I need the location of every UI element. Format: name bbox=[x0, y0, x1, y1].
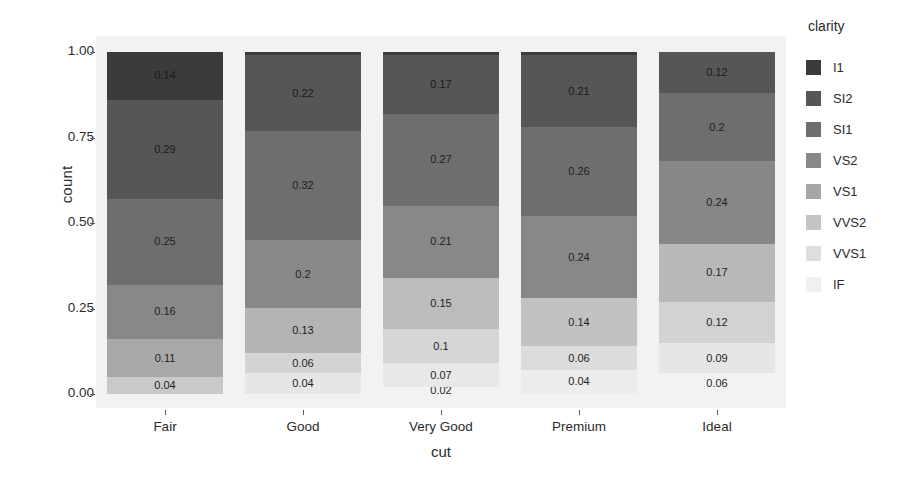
bar-segment-label: 0.17 bbox=[706, 267, 727, 278]
bar-segment-si2[interactable]: 0.22 bbox=[245, 55, 361, 130]
bar-segment-vs1[interactable]: 0.14 bbox=[521, 298, 637, 346]
bar-segment-if[interactable]: 0.06 bbox=[659, 373, 775, 394]
bar-segment-si2[interactable]: 0.12 bbox=[659, 52, 775, 93]
bar-segment-label: 0.14 bbox=[568, 317, 589, 328]
bar-segment-si2[interactable]: 0.17 bbox=[383, 55, 499, 113]
y-tick-label: 0.50 bbox=[32, 214, 94, 229]
legend-swatch-icon bbox=[806, 153, 821, 168]
bar-segment-vvs1[interactable]: 0.09 bbox=[659, 343, 775, 374]
bar-very-good[interactable]: 0.170.270.210.150.10.070.02 bbox=[383, 52, 499, 394]
legend-label: VVS1 bbox=[833, 246, 866, 261]
bar-segment-si2[interactable]: 0.21 bbox=[521, 55, 637, 127]
bar-segment-label: 0.09 bbox=[706, 353, 727, 364]
bar-segment-label: 0.32 bbox=[292, 180, 313, 191]
bar-premium[interactable]: 0.210.260.240.140.060.04 bbox=[521, 52, 637, 394]
bar-segment-label: 0.17 bbox=[430, 79, 451, 90]
bar-segment-vvs2[interactable]: 0.1 bbox=[383, 329, 499, 363]
bar-segment-label: 0.14 bbox=[154, 70, 175, 81]
legend-swatch-icon bbox=[806, 277, 821, 292]
bar-segment-i1[interactable]: 0.14 bbox=[107, 52, 223, 100]
y-tick-mark bbox=[90, 394, 95, 395]
legend-item-i1[interactable]: I1 bbox=[806, 52, 906, 83]
bar-segment-vs2[interactable]: 0.16 bbox=[107, 285, 223, 340]
legend-label: I1 bbox=[833, 60, 844, 75]
bar-segment-label: 0.1 bbox=[433, 341, 448, 352]
bar-segment-label: 0.06 bbox=[292, 358, 313, 369]
x-tick-mark bbox=[717, 410, 718, 415]
y-tick-label: 1.00 bbox=[32, 43, 94, 58]
bar-segment-label: 0.04 bbox=[568, 376, 589, 387]
bar-segment-vs1[interactable]: 0.17 bbox=[659, 244, 775, 302]
bar-segment-label: 0.16 bbox=[154, 306, 175, 317]
bar-segment-label: 0.04 bbox=[292, 378, 313, 389]
bar-segment-label: 0.26 bbox=[568, 166, 589, 177]
x-tick-label-ideal: Ideal bbox=[647, 419, 787, 434]
x-tick-mark bbox=[165, 410, 166, 415]
bar-segment-vvs1[interactable]: 0.07 bbox=[383, 363, 499, 387]
bar-segment-si1[interactable]: 0.2 bbox=[659, 93, 775, 161]
bar-segment-vs2[interactable]: 0.24 bbox=[521, 216, 637, 298]
legend-item-if[interactable]: IF bbox=[806, 269, 906, 300]
bar-segment-label: 0.15 bbox=[430, 298, 451, 309]
legend-label: SI2 bbox=[833, 91, 853, 106]
bar-segment-label: 0.13 bbox=[292, 325, 313, 336]
y-tick-label: 0.25 bbox=[32, 300, 94, 315]
x-tick-mark bbox=[579, 410, 580, 415]
legend-swatch-icon bbox=[806, 122, 821, 137]
bar-fair[interactable]: 0.140.290.250.160.110.04 bbox=[107, 52, 223, 394]
x-tick-label-premium: Premium bbox=[509, 419, 649, 434]
y-tick-label: 0.75 bbox=[32, 129, 94, 144]
bar-segment-vvs2[interactable]: 0.04 bbox=[107, 377, 223, 394]
bar-segment-if[interactable]: 0.02 bbox=[383, 387, 499, 394]
bar-segment-label: 0.11 bbox=[155, 353, 176, 364]
legend-item-vs1[interactable]: VS1 bbox=[806, 176, 906, 207]
legend-items: I1SI2SI1VS2VS1VVS2VVS1IF bbox=[806, 52, 906, 300]
bar-segment-vs1[interactable]: 0.13 bbox=[245, 308, 361, 352]
legend-item-si2[interactable]: SI2 bbox=[806, 83, 906, 114]
legend: clarity I1SI2SI1VS2VS1VVS2VVS1IF bbox=[806, 18, 906, 300]
x-axis-title: cut bbox=[96, 443, 786, 460]
x-tick-label-fair: Fair bbox=[95, 419, 235, 434]
bar-good[interactable]: 0.220.320.20.130.060.04 bbox=[245, 52, 361, 394]
legend-swatch-icon bbox=[806, 246, 821, 261]
legend-label: IF bbox=[833, 277, 845, 292]
bar-segment-label: 0.12 bbox=[706, 67, 727, 78]
y-axis: 1.000.750.500.250.00 bbox=[26, 0, 94, 481]
bar-segment-vs2[interactable]: 0.24 bbox=[659, 161, 775, 243]
y-tick-mark bbox=[90, 309, 95, 310]
legend-swatch-icon bbox=[806, 184, 821, 199]
bar-segment-vvs1[interactable]: 0.04 bbox=[245, 373, 361, 394]
bar-segment-vvs2[interactable]: 0.06 bbox=[245, 353, 361, 374]
bar-segment-label: 0.07 bbox=[430, 370, 451, 381]
bar-segment-si1[interactable]: 0.32 bbox=[245, 131, 361, 240]
bar-ideal[interactable]: 0.120.20.240.170.120.090.06 bbox=[659, 52, 775, 394]
y-tick-label: 0.00 bbox=[32, 385, 94, 400]
legend-item-si1[interactable]: SI1 bbox=[806, 114, 906, 145]
legend-item-vs2[interactable]: VS2 bbox=[806, 145, 906, 176]
legend-swatch-icon bbox=[806, 60, 821, 75]
bar-segment-label: 0.22 bbox=[292, 88, 313, 99]
bar-segment-vs2[interactable]: 0.2 bbox=[245, 240, 361, 308]
bar-segment-vs2[interactable]: 0.21 bbox=[383, 206, 499, 278]
bar-segment-label: 0.24 bbox=[706, 197, 727, 208]
bar-segment-vs1[interactable]: 0.11 bbox=[107, 339, 223, 377]
bar-segment-vvs1[interactable]: 0.04 bbox=[521, 370, 637, 394]
bar-segment-vs1[interactable]: 0.15 bbox=[383, 278, 499, 329]
bar-segment-label: 0.29 bbox=[154, 144, 175, 155]
stacked-bar-chart: count 1.000.750.500.250.00 0.140.290.250… bbox=[0, 0, 910, 481]
y-tick-mark bbox=[90, 223, 95, 224]
bar-segment-label: 0.04 bbox=[154, 380, 175, 391]
legend-item-vvs1[interactable]: VVS1 bbox=[806, 238, 906, 269]
x-tick-label-very-good: Very Good bbox=[371, 419, 511, 434]
legend-item-vvs2[interactable]: VVS2 bbox=[806, 207, 906, 238]
bar-segment-si2[interactable]: 0.29 bbox=[107, 100, 223, 199]
bar-segment-si1[interactable]: 0.27 bbox=[383, 114, 499, 206]
bar-segment-label: 0.06 bbox=[568, 353, 589, 364]
bar-segment-label: 0.12 bbox=[706, 317, 727, 328]
bar-segment-si1[interactable]: 0.25 bbox=[107, 199, 223, 285]
bar-segment-label: 0.2 bbox=[709, 122, 724, 133]
bar-segment-vvs2[interactable]: 0.12 bbox=[659, 302, 775, 343]
bar-segment-si1[interactable]: 0.26 bbox=[521, 127, 637, 216]
bar-segment-label: 0.24 bbox=[568, 252, 589, 263]
bar-segment-vvs2[interactable]: 0.06 bbox=[521, 346, 637, 370]
